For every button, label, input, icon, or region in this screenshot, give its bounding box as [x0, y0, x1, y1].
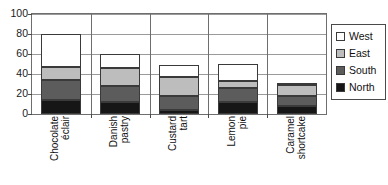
bar-segment-east — [277, 85, 317, 96]
y-tick-mark — [28, 114, 32, 115]
bar-segment-north — [277, 106, 317, 114]
x-tick-label: Custard tart — [168, 116, 188, 180]
bar-segment-east — [218, 81, 258, 88]
y-tick-mark — [28, 34, 32, 35]
bar-segment-south — [159, 96, 199, 110]
bar-segment-north — [159, 110, 199, 114]
y-tick-mark — [28, 74, 32, 75]
bar-segment-east — [41, 67, 81, 80]
x-tick-label-text: Custard tart — [168, 116, 189, 180]
legend-item-west[interactable]: West — [336, 28, 382, 45]
gridline-vertical — [91, 14, 92, 114]
legend-swatch-west — [336, 32, 345, 41]
y-tick-label: 20 — [2, 88, 28, 98]
bar-danish-pastry — [100, 14, 140, 114]
x-tick-label: Lemon pie — [227, 116, 247, 180]
bar-segment-east — [100, 68, 140, 86]
bar-segment-west — [41, 34, 81, 67]
y-axis: 020406080100 — [0, 0, 28, 185]
legend: WestEastSouthNorth — [331, 24, 386, 100]
bar-segment-west — [218, 64, 258, 81]
bar-segment-west — [159, 65, 199, 77]
x-tick-label-text: Caramel shortcake — [286, 116, 307, 180]
legend-label: East — [349, 48, 370, 59]
legend-swatch-east — [336, 49, 345, 58]
x-tick-label: Chocolate éclair — [50, 116, 70, 180]
legend-item-east[interactable]: East — [336, 45, 382, 62]
bar-segment-south — [41, 80, 81, 100]
legend-swatch-south — [336, 66, 345, 75]
gridline-vertical — [208, 14, 209, 114]
bar-segment-north — [41, 100, 81, 114]
bar-segment-south — [218, 88, 258, 102]
x-tick-label-text: Lemon pie — [227, 116, 248, 180]
bar-caramel-shortcake — [277, 14, 317, 114]
legend-item-north[interactable]: North — [336, 79, 382, 96]
y-tick-label: 100 — [2, 8, 28, 18]
bar-segment-west — [277, 83, 317, 85]
y-tick-label: 40 — [2, 68, 28, 78]
gridline-vertical — [267, 14, 268, 114]
bar-segment-north — [100, 102, 140, 114]
x-axis: Chocolate éclairDanish pastryCustard tar… — [31, 116, 325, 185]
legend-label: North — [349, 82, 375, 93]
bar-chocolate-clair — [41, 14, 81, 114]
legend-label: South — [349, 65, 376, 76]
y-tick-mark — [28, 54, 32, 55]
bar-segment-west — [100, 54, 140, 68]
y-tick-label: 60 — [2, 48, 28, 58]
stacked-bar-chart: 020406080100 Chocolate éclairDanish past… — [0, 0, 388, 185]
x-tick-label-text: Danish pastry — [109, 116, 130, 180]
x-tick-label: Caramel shortcake — [286, 116, 306, 180]
bar-segment-south — [100, 86, 140, 102]
legend-swatch-north — [336, 83, 345, 92]
gridline-vertical — [150, 14, 151, 114]
x-tick-label-text: Chocolate éclair — [50, 116, 71, 180]
bar-segment-south — [277, 96, 317, 106]
legend-label: West — [349, 31, 373, 42]
legend-item-south[interactable]: South — [336, 62, 382, 79]
bar-segment-north — [218, 102, 258, 114]
y-tick-label: 0 — [2, 108, 28, 118]
bar-segment-east — [159, 77, 199, 96]
y-tick-mark — [28, 14, 32, 15]
plot-area — [31, 13, 327, 115]
bar-custard-tart — [159, 14, 199, 114]
x-tick-label: Danish pastry — [109, 116, 129, 180]
y-tick-label: 80 — [2, 28, 28, 38]
bar-lemon-pie — [218, 14, 258, 114]
y-tick-mark — [28, 94, 32, 95]
